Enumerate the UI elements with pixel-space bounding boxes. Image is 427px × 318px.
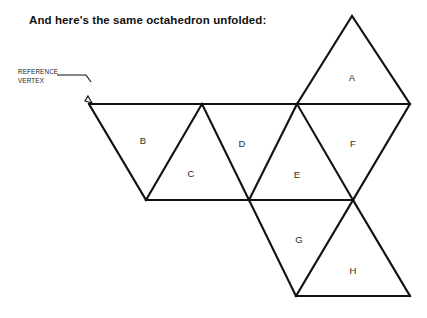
face-label-E: E: [294, 169, 301, 180]
leader-line: [57, 75, 91, 82]
face-label-F: F: [350, 138, 356, 149]
face-label-B: B: [140, 135, 147, 146]
face-label-C: C: [187, 168, 194, 179]
leader-arrowhead: [85, 96, 92, 103]
face-A: [297, 16, 410, 104]
face-label-D: D: [238, 138, 245, 149]
octahedron-net-figure: A B C D E F G H: [0, 0, 427, 318]
face-label-G: G: [295, 234, 303, 245]
face-label-A: A: [349, 72, 356, 83]
face-label-H: H: [349, 265, 356, 276]
figure-page: And here's the same octahedron unfolded:…: [0, 0, 427, 318]
